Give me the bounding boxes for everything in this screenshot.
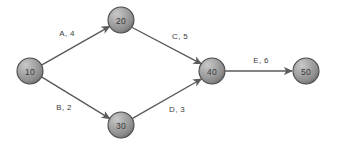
edge-A-10-to-20 <box>42 26 110 65</box>
edge-label-B: B, 2 <box>56 103 72 112</box>
node-30-label: 30 <box>116 121 126 131</box>
node-20[interactable]: 20 <box>108 7 134 33</box>
edge-C-20-to-40 <box>132 28 201 64</box>
edge-label-A: A, 4 <box>59 29 75 38</box>
node-40-label: 40 <box>207 67 217 77</box>
edge-B-10-to-30 <box>42 77 110 119</box>
nodes-layer: 10 20 30 40 50 <box>17 7 319 138</box>
network-diagram: 10 20 30 40 50 A, 4 B, 2 C, 5 <box>0 0 339 146</box>
edge-label-E: E, 6 <box>253 56 269 65</box>
node-30[interactable]: 30 <box>108 112 134 138</box>
node-50[interactable]: 50 <box>293 58 319 84</box>
edge-label-D: D, 3 <box>169 105 185 114</box>
edge-label-C: C, 5 <box>172 32 188 41</box>
node-40[interactable]: 40 <box>199 58 225 84</box>
edges-layer <box>42 26 293 118</box>
edge-D-30-to-40 <box>133 79 202 118</box>
node-50-label: 50 <box>301 67 311 77</box>
node-20-label: 20 <box>116 16 126 26</box>
diagram-canvas: 10 20 30 40 50 A, 4 B, 2 C, 5 <box>0 0 339 146</box>
node-10-label: 10 <box>25 67 35 77</box>
node-10[interactable]: 10 <box>17 58 43 84</box>
